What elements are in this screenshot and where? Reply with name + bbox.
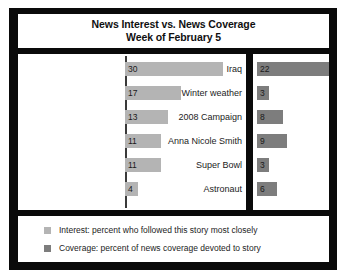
legend-swatch-interest-icon — [44, 227, 51, 234]
chart-row: 22 — [253, 57, 329, 81]
legend-label-interest: Interest: percent who followed this stor… — [59, 225, 257, 235]
coverage-bar-value: 9 — [260, 134, 265, 148]
interest-bar-value: 17 — [128, 86, 137, 100]
coverage-bar-value: 22 — [260, 62, 269, 76]
interest-bar-value: 30 — [128, 62, 137, 76]
coverage-rows: 2238936 — [253, 54, 329, 210]
interest-bar: 30 — [125, 62, 223, 76]
coverage-bar-value: 8 — [260, 110, 265, 124]
coverage-bar: 22 — [257, 62, 329, 76]
chart-row: 2008 Campaign13 — [18, 105, 246, 129]
interest-panel: Iraq30Winter weather172008 Campaign13Ann… — [18, 54, 246, 210]
coverage-bar: 3 — [257, 158, 269, 172]
coverage-bar: 6 — [257, 182, 277, 196]
interest-bar: 17 — [125, 86, 181, 100]
chart-row: Anna Nicole Smith11 — [18, 129, 246, 153]
interest-bar-value: 13 — [128, 110, 137, 124]
legend-label-coverage: Coverage: percent of news coverage devot… — [59, 243, 261, 253]
category-label: Astronaut — [139, 177, 246, 201]
chart-title-line-2: Week of February 5 — [126, 31, 221, 44]
chart-title-line-1: News Interest vs. News Coverage — [92, 18, 256, 31]
chart-figure: News Interest vs. News Coverage Week of … — [0, 0, 346, 279]
coverage-bar: 9 — [257, 134, 287, 148]
interest-bar-value: 11 — [128, 134, 137, 148]
chart-row: 3 — [253, 153, 329, 177]
coverage-bar-value: 6 — [260, 182, 265, 196]
interest-bar: 11 — [125, 134, 161, 148]
interest-bar: 11 — [125, 158, 161, 172]
chart-row: 8 — [253, 105, 329, 129]
interest-bar-value: 11 — [128, 158, 137, 172]
coverage-bar-value: 3 — [260, 86, 265, 100]
coverage-panel: 2238936 — [253, 54, 329, 210]
interest-bar: 4 — [125, 182, 138, 196]
chart-row: 9 — [253, 129, 329, 153]
chart-row: Super Bowl11 — [18, 153, 246, 177]
legend-item-interest: Interest: percent who followed this stor… — [44, 221, 329, 239]
interest-bar: 13 — [125, 110, 168, 124]
interest-bar-value: 4 — [128, 182, 133, 196]
coverage-bar: 8 — [257, 110, 283, 124]
title-panel: News Interest vs. News Coverage Week of … — [18, 14, 329, 48]
legend-panel: Interest: percent who followed this stor… — [18, 216, 329, 262]
interest-rows: Iraq30Winter weather172008 Campaign13Ann… — [18, 54, 246, 210]
chart-row: Iraq30 — [18, 57, 246, 81]
legend-item-coverage: Coverage: percent of news coverage devot… — [44, 239, 329, 257]
legend-swatch-coverage-icon — [44, 245, 51, 252]
coverage-bar-value: 3 — [260, 158, 265, 172]
chart-row: Winter weather17 — [18, 81, 246, 105]
chart-row: 3 — [253, 81, 329, 105]
chart-row: Astronaut4 — [18, 177, 246, 201]
coverage-bar: 3 — [257, 86, 269, 100]
chart-row: 6 — [253, 177, 329, 201]
